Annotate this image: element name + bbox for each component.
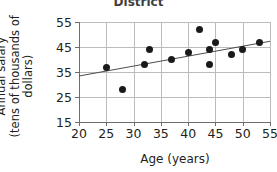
x-tick-label-45: 45 (207, 126, 223, 141)
trend-line (79, 22, 270, 123)
y-tick-label-15: 15 (56, 115, 72, 130)
x-tick-label-40: 40 (180, 126, 196, 141)
data-point (185, 49, 192, 56)
y-axis-label-line-2: (tens of thousands of (8, 12, 22, 140)
y-axis-label-line-3: dollars) (22, 12, 36, 140)
data-point (196, 26, 203, 33)
scatter-plot-figure: District Annual salary (tens of thousand… (0, 0, 277, 172)
data-point (212, 39, 219, 46)
x-axis-label: Age (years) (79, 152, 271, 166)
y-tick-label-35: 35 (56, 65, 72, 80)
x-tick-label-35: 35 (153, 126, 169, 141)
y-axis-label: Annual salary (tens of thousands of doll… (0, 12, 35, 140)
data-point (141, 61, 148, 68)
chart-title: District (0, 0, 277, 9)
x-tick-label-55: 55 (262, 126, 277, 141)
x-tick-label-25: 25 (98, 126, 114, 141)
x-tick-label-50: 50 (235, 126, 251, 141)
plot-area: 1525354555 2025303540455055 (79, 22, 270, 123)
x-tick-label-30: 30 (126, 126, 142, 141)
data-point (103, 64, 110, 71)
y-tick-label-45: 45 (56, 40, 72, 55)
y-tick-label-25: 25 (56, 90, 72, 105)
data-point (256, 39, 263, 46)
x-tick-label-20: 20 (71, 126, 87, 141)
gridline-vertical (270, 22, 271, 123)
y-tick-label-55: 55 (56, 15, 72, 30)
